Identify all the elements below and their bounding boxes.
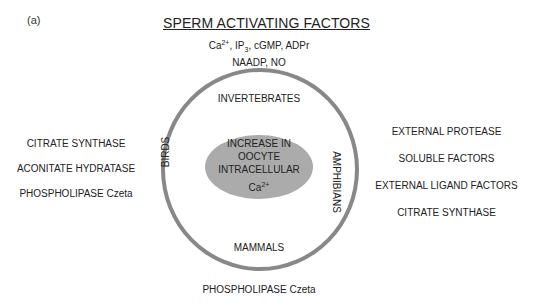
amphibian-factor-list: EXTERNAL PROTEASE SOLUBLE FACTORS EXTERN… [360,126,533,234]
birds-factor: PHOSPHOLIPASE Czeta [0,188,152,213]
mammal-factor: PHOSPHOLIPASE Czeta [0,284,518,295]
group-invertebrates: INVERTEBRATES [0,93,518,104]
birds-factor: ACONITATE HYDRATASE [0,163,152,188]
birds-factor: CITRATE SYNTHASE [0,138,152,163]
amphibian-factor: CITRATE SYNTHASE [360,207,533,234]
center-line3: INTRACELLULAR [205,163,313,176]
center-ion: Ca2+ [205,178,313,194]
ion-charge: 2+ [261,181,269,188]
diagram-title: SPERM ACTIVATING FACTORS [0,15,533,31]
center-line2: OOCYTE [205,150,313,163]
factor-rest: , cGMP, ADPr [248,40,309,51]
center-label: INCREASE IN OOCYTE INTRACELLULAR Ca2+ [205,137,313,194]
factor-ca: Ca [209,40,222,51]
group-amphibians: AMPHIBIANS [331,142,342,222]
amphibian-factor: EXTERNAL LIGAND FACTORS [360,180,533,207]
amphibian-factor: EXTERNAL PROTEASE [360,126,533,153]
sperm-factors-list: Ca2+, IP3, cGMP, ADPr NAADP, NO [0,36,518,69]
group-birds: BIRDS [160,127,171,177]
center-line1: INCREASE IN [205,137,313,150]
group-mammals: MAMMALS [0,242,518,253]
factor-ip: , IP [229,40,244,51]
amphibian-factor: SOLUBLE FACTORS [360,153,533,180]
birds-factor-list: CITRATE SYNTHASE ACONITATE HYDRATASE PHO… [0,138,152,213]
ion-symbol: Ca [249,182,262,193]
sperm-factors-line1: Ca2+, IP3, cGMP, ADPr [0,36,518,56]
